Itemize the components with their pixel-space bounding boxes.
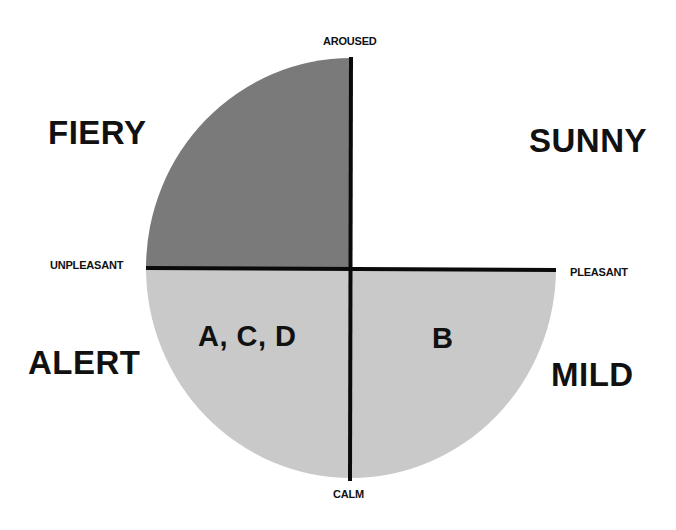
quadrant-items-alert: A, C, D bbox=[198, 320, 297, 353]
axis-label-pleasant: PLEASANT bbox=[570, 266, 628, 278]
quadrant-sunny-fill bbox=[351, 58, 556, 268]
quadrant-items-mild: B bbox=[432, 322, 453, 355]
quadrant-alert-fill bbox=[146, 268, 351, 478]
axis-label-aroused: AROUSED bbox=[323, 35, 377, 47]
horizontal-axis bbox=[146, 268, 556, 270]
quadrant-label-alert: ALERT bbox=[28, 344, 141, 382]
quadrant-label-mild: MILD bbox=[551, 356, 634, 394]
axis-label-unpleasant: UNPLEASANT bbox=[50, 259, 123, 271]
axis-label-calm: CALM bbox=[333, 488, 364, 500]
mood-quadrant-diagram: AROUSED CALM UNPLEASANT PLEASANT FIERY S… bbox=[0, 0, 676, 530]
quadrant-label-sunny: SUNNY bbox=[529, 122, 647, 160]
quadrant-label-fiery: FIERY bbox=[48, 114, 146, 152]
quadrant-fiery-fill bbox=[146, 58, 351, 268]
quadrant-mild-fill bbox=[351, 268, 556, 478]
